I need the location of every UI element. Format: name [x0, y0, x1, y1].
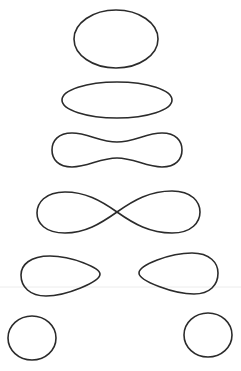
flat-ellipse-curve	[62, 82, 172, 118]
peanut-curve	[52, 133, 182, 167]
oval-top-curve	[74, 10, 158, 68]
teardrop-right-curve	[139, 253, 218, 294]
lemniscate-curve	[37, 191, 200, 233]
curve-diagram	[0, 0, 241, 371]
circle-left-curve	[8, 316, 56, 360]
circle-right-curve	[184, 313, 232, 357]
teardrop-left-curve	[21, 256, 100, 296]
